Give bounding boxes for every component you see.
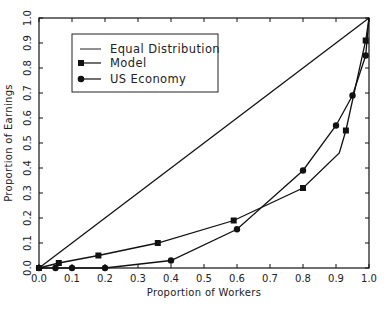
x-tick-label: 0.5 [196,273,212,284]
y-axis-title: Proportion of Earnings [3,84,14,202]
x-tick-label: 0.0 [31,273,47,284]
circle-marker-icon [300,167,306,173]
x-tick-label: 0.1 [64,273,80,284]
circle-marker-icon [69,265,75,271]
y-tick-label: 0.1 [22,235,33,251]
legend-label: US Economy [110,72,186,86]
x-tick-label: 0.3 [130,273,146,284]
x-tick-label: 0.8 [295,273,311,284]
x-tick-label: 0.2 [97,273,113,284]
x-tick-label: 1.0 [361,273,377,284]
y-tick-label: 0.5 [22,135,33,151]
legend-label: Equal Distribution [110,42,220,56]
x-axis-title: Proportion of Workers [147,287,261,298]
x-tick-label: 0.7 [262,273,278,284]
x-tick-label: 0.4 [163,273,179,284]
circle-marker-icon [102,265,108,271]
x-tick-label: 0.6 [229,273,245,284]
y-tick-label: 0.2 [22,210,33,226]
legend: Equal Distribution Model US Economy [72,34,220,92]
y-tick-label: 0.8 [22,60,33,76]
y-tick-label: 0.4 [22,160,33,176]
circle-marker-icon [36,265,42,271]
circle-marker-icon [234,226,240,232]
legend-label: Model [110,56,147,70]
square-marker-icon [78,60,84,66]
lorenz-curve-chart: 0.00.10.20.30.40.50.60.70.80.91.0 0.00.1… [0,0,384,309]
circle-marker-icon [168,257,174,263]
square-marker-icon [231,218,237,224]
circle-marker-icon [363,52,369,58]
circle-marker-icon [333,122,339,128]
y-tick-label: 1.0 [22,10,33,26]
square-marker-icon [300,185,306,191]
square-marker-icon [155,240,161,246]
y-tick-label: 0.0 [22,260,33,276]
y-tick-label: 0.9 [22,35,33,51]
square-marker-icon [95,253,101,259]
x-tick-label: 0.9 [328,273,344,284]
y-tick-label: 0.3 [22,185,33,201]
circle-marker-icon [78,76,85,83]
square-marker-icon [343,128,349,134]
circle-marker-icon [349,92,355,98]
y-tick-label: 0.6 [22,110,33,126]
y-tick-label: 0.7 [22,85,33,101]
circle-marker-icon [52,265,58,271]
